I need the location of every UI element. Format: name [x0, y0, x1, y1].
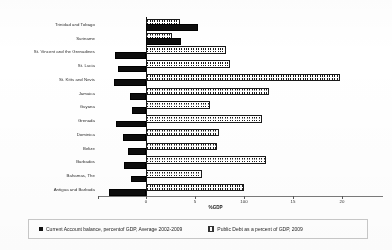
category-label: St. Vincent and the Grenadines	[0, 49, 95, 54]
bar-public-debt	[146, 46, 226, 53]
bar-public-debt	[146, 143, 217, 150]
bar-public-debt	[146, 88, 269, 95]
bar-public-debt	[146, 101, 210, 108]
bar-current-account	[128, 148, 146, 155]
legend-label-current-account: Current Account balance, percentof GDP, …	[46, 226, 182, 232]
bar-current-account	[118, 66, 146, 73]
bar-current-account	[114, 79, 146, 86]
hatched-square-icon	[208, 226, 214, 232]
legend-label-public-debt: Public Debt as a percent of GDP, 2009	[217, 226, 303, 232]
bar-public-debt	[146, 129, 219, 136]
x-axis-tick-label: 0	[145, 199, 147, 204]
category-label: Antigua and Barbuda	[0, 186, 95, 191]
category-label: Barbados	[0, 159, 95, 164]
x-axis-title: %GDP	[209, 205, 223, 210]
bar-current-account	[130, 93, 146, 100]
bar-current-account	[146, 24, 198, 31]
x-axis-tick-label: 5	[194, 199, 196, 204]
bar-public-debt	[146, 60, 230, 67]
bar-public-debt	[146, 115, 262, 122]
x-axis-tick-label: 20	[340, 199, 345, 204]
bar-public-debt	[146, 156, 266, 163]
category-label: St. Lucia	[0, 63, 95, 68]
bar-current-account	[131, 176, 146, 183]
plot-area	[146, 17, 342, 196]
bar-current-account	[115, 52, 146, 59]
category-axis: Trinidad and TobagoSurinameSt. Vincent a…	[0, 17, 95, 196]
bar-current-account	[124, 162, 146, 169]
filled-square-icon	[39, 227, 43, 231]
legend-item-public-debt[interactable]: Public Debt as a percent of GDP, 2009	[208, 226, 303, 232]
x-axis-tick-mark	[98, 196, 99, 199]
category-label: Dominica	[0, 131, 95, 136]
category-label: Suriname	[0, 35, 95, 40]
chart-container: Trinidad and TobagoSurinameSt. Vincent a…	[0, 0, 392, 250]
category-label: Grenada	[0, 118, 95, 123]
x-axis-tick-label: 15	[291, 199, 296, 204]
x-axis-tick-label: 100	[240, 199, 247, 204]
bar-current-account	[132, 107, 146, 114]
category-label: Belize	[0, 145, 95, 150]
category-label: Guyana	[0, 104, 95, 109]
bar-current-account	[146, 38, 181, 45]
bar-current-account	[123, 134, 146, 141]
bar-public-debt	[146, 170, 202, 177]
category-label: Jamaica	[0, 90, 95, 95]
bar-public-debt	[146, 184, 244, 191]
bar-current-account	[116, 121, 146, 128]
chart-legend: Current Account balance, percentof GDP, …	[28, 219, 368, 239]
legend-item-current-account[interactable]: Current Account balance, percentof GDP, …	[39, 226, 182, 232]
category-label: Bahamas, The	[0, 173, 95, 178]
category-label: Trinidad and Tobago	[0, 21, 95, 26]
bar-public-debt	[146, 74, 340, 81]
x-axis: %GDP 051001520	[0, 196, 392, 214]
category-label: St. Kitts and Nevis	[0, 76, 95, 81]
